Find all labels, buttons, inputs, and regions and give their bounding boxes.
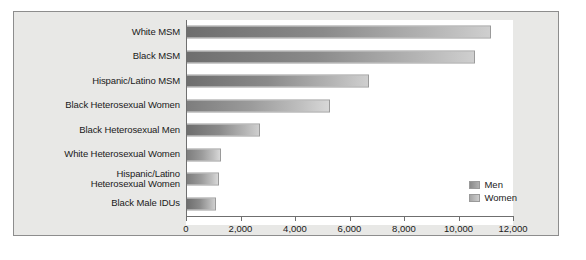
bar bbox=[186, 148, 221, 161]
bar-row: Black Heterosexual Women bbox=[14, 94, 560, 119]
category-axis-line bbox=[186, 20, 187, 216]
axis-tick bbox=[513, 216, 514, 221]
axis-tick bbox=[241, 216, 242, 221]
category-label: White Heterosexual Women bbox=[14, 149, 186, 160]
bar-track bbox=[186, 69, 560, 94]
axis-tick-label: 2,000 bbox=[229, 223, 253, 234]
bar-row: Black Heterosexual Men bbox=[14, 118, 560, 143]
axis-tick-label: 8,000 bbox=[392, 223, 416, 234]
legend-item-men: Men bbox=[469, 179, 517, 190]
legend-label: Women bbox=[484, 192, 517, 203]
legend-item-women: Women bbox=[469, 192, 517, 203]
bar bbox=[186, 124, 260, 137]
legend-swatch-men-icon bbox=[469, 181, 480, 189]
axis-tick-label: 6,000 bbox=[338, 223, 362, 234]
axis-tick bbox=[295, 216, 296, 221]
bar bbox=[186, 26, 491, 39]
axis-tick bbox=[350, 216, 351, 221]
category-label: Hispanic/Latino MSM bbox=[14, 76, 186, 87]
category-label: Black Heterosexual Women bbox=[14, 100, 186, 111]
bar-track bbox=[186, 118, 560, 143]
bar bbox=[186, 173, 219, 186]
bar bbox=[186, 75, 369, 88]
axis-tick-label: 4,000 bbox=[283, 223, 307, 234]
value-axis-line: 02,0004,0006,0008,00010,00012,000 bbox=[186, 216, 513, 217]
bar bbox=[186, 197, 216, 210]
category-label: White MSM bbox=[14, 27, 186, 38]
bar-row: White MSM bbox=[14, 20, 560, 45]
bar bbox=[186, 50, 475, 63]
axis-tick-label: 0 bbox=[183, 223, 188, 234]
bar-chart: White MSMBlack MSMHispanic/Latino MSMBla… bbox=[13, 11, 559, 236]
legend-label: Men bbox=[484, 179, 502, 190]
chart-legend: MenWomen bbox=[469, 179, 517, 203]
bar-track bbox=[186, 45, 560, 70]
category-label: Black Male IDUs bbox=[14, 198, 186, 209]
axis-tick-label: 12,000 bbox=[498, 223, 527, 234]
category-label: Black MSM bbox=[14, 51, 186, 62]
axis-tick bbox=[186, 216, 187, 221]
bar bbox=[186, 99, 330, 112]
bar-track bbox=[186, 20, 560, 45]
bar-row: Hispanic/Latino MSM bbox=[14, 69, 560, 94]
bar-row: White Heterosexual Women bbox=[14, 143, 560, 168]
bar-track bbox=[186, 94, 560, 119]
category-label: Black Heterosexual Men bbox=[14, 125, 186, 136]
category-label: Hispanic/Latino Heterosexual Women bbox=[14, 169, 186, 190]
bar-track bbox=[186, 143, 560, 168]
axis-tick bbox=[404, 216, 405, 221]
axis-tick bbox=[459, 216, 460, 221]
axis-tick-label: 10,000 bbox=[444, 223, 473, 234]
legend-swatch-women-icon bbox=[469, 194, 480, 202]
bar-row: Black MSM bbox=[14, 45, 560, 70]
